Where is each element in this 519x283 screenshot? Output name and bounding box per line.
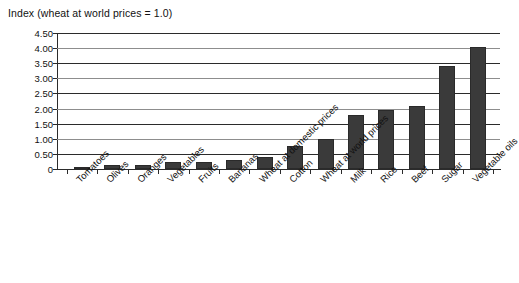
y-tick-label: 3.50 bbox=[5, 58, 53, 69]
x-tick-mark bbox=[493, 170, 494, 174]
gridline bbox=[57, 109, 500, 110]
y-tick-label: 0 bbox=[5, 164, 53, 175]
y-tick-label: 3.00 bbox=[5, 73, 53, 84]
gridline bbox=[57, 139, 500, 140]
y-tick-label: 1.50 bbox=[5, 118, 53, 129]
gridline bbox=[57, 124, 500, 125]
y-tick-label: 4.50 bbox=[5, 28, 53, 39]
y-tick-label: 0.50 bbox=[5, 148, 53, 159]
x-tick-mark bbox=[219, 170, 220, 174]
x-tick-mark bbox=[158, 170, 159, 174]
x-tick-mark bbox=[67, 170, 68, 174]
x-tick-mark bbox=[402, 170, 403, 174]
x-tick-mark bbox=[371, 170, 372, 174]
y-tick-label: 4.00 bbox=[5, 43, 53, 54]
x-tick-mark bbox=[97, 170, 98, 174]
x-tick-mark bbox=[128, 170, 129, 174]
gridline bbox=[57, 78, 500, 79]
x-tick-mark bbox=[463, 170, 464, 174]
y-tick-label: 2.00 bbox=[5, 103, 53, 114]
y-tick-label: 1.00 bbox=[5, 133, 53, 144]
gridline bbox=[57, 33, 500, 34]
bar bbox=[439, 66, 455, 169]
x-tick-mark bbox=[432, 170, 433, 174]
y-tick-label: 2.50 bbox=[5, 88, 53, 99]
y-axis-tick-labels: 4.504.003.503.002.502.001.501.000.500 bbox=[0, 0, 53, 283]
bar bbox=[470, 47, 486, 169]
x-tick-mark bbox=[249, 170, 250, 174]
plot-area bbox=[57, 33, 500, 169]
x-tick-mark bbox=[280, 170, 281, 174]
gridline bbox=[57, 93, 500, 94]
gridline bbox=[57, 63, 500, 64]
x-tick-mark bbox=[310, 170, 311, 174]
x-tick-mark bbox=[189, 170, 190, 174]
gridline bbox=[57, 48, 500, 49]
x-tick-mark bbox=[341, 170, 342, 174]
bar bbox=[409, 106, 425, 169]
